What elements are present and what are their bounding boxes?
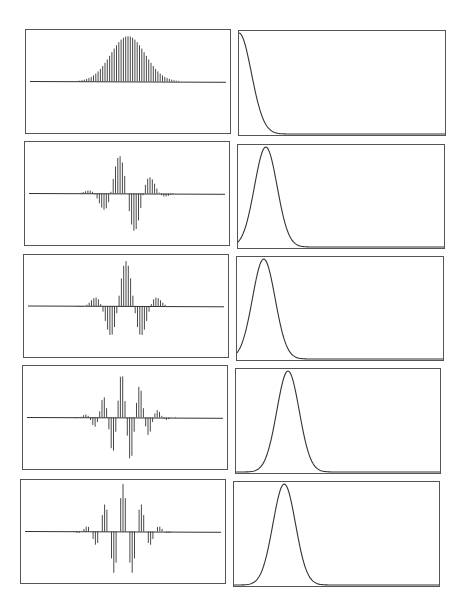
baseline [29, 194, 225, 195]
baseline [28, 306, 224, 307]
spectrum-plot-row5 [233, 481, 440, 587]
stem-plot [25, 142, 229, 245]
spectrum-plot-row4 [235, 368, 441, 474]
stem-plot [23, 366, 227, 469]
spectrum-curve [236, 369, 440, 473]
signal-plot-row3 [23, 254, 229, 358]
signal-plot-row2 [24, 141, 230, 246]
signal-plot-row5 [20, 479, 226, 584]
baseline [30, 82, 226, 83]
spectrum-curve [234, 482, 439, 586]
signal-plot-row4 [22, 365, 228, 470]
spectrum-curve [237, 257, 443, 360]
spectrum-plot-row3 [236, 256, 444, 361]
spectrum-curve [238, 145, 444, 248]
spectrum-plot-row1 [238, 30, 446, 136]
stem-plot [21, 480, 225, 583]
stem-plot [26, 30, 230, 133]
spectrum-plot-row2 [237, 144, 445, 249]
baseline [27, 418, 223, 419]
baseline [25, 532, 221, 533]
spectrum-curve [239, 31, 445, 135]
signal-plot-row1 [25, 29, 231, 134]
stem-plot [24, 255, 228, 357]
